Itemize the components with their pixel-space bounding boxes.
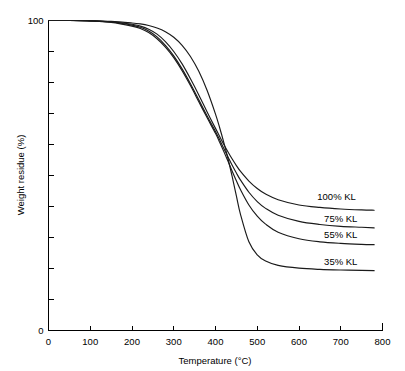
x-tick-label-400: 400 [208,336,224,347]
tga-chart-figure: 0100200300400500600700800 0100 100% KL75… [0,0,405,371]
x-tick-label-700: 700 [333,336,349,347]
x-tick-label-500: 500 [249,336,265,347]
series-line-55-kl [49,20,375,244]
y-tick-labels: 0100 [28,15,44,336]
x-tick-labels: 0100200300400500600700800 [46,336,391,347]
x-tick-label-200: 200 [124,336,140,347]
series-label-55-kl: 55% KL [324,229,357,240]
y-tick-label-0: 0 [38,325,43,336]
axis-frame [49,21,383,331]
series-annotations: 100% KL75% KL55% KL35% KL [317,191,357,267]
chart-canvas: 0100200300400500600700800 0100 100% KL75… [0,0,405,371]
series-label-100-kl: 100% KL [317,191,356,202]
x-axis-title: Temperature (°C) [179,355,252,366]
x-tick-label-100: 100 [82,336,98,347]
y-tick-marks [49,21,54,331]
x-tick-label-800: 800 [375,336,391,347]
x-tick-label-300: 300 [166,336,182,347]
x-tick-marks [49,326,383,331]
x-tick-label-600: 600 [291,336,307,347]
x-tick-label-0: 0 [46,336,51,347]
series-line-100-kl [49,20,375,210]
y-axis-title: Weight residue (%) [15,135,26,216]
y-tick-label-100: 100 [28,15,44,26]
series-label-75-kl: 75% KL [324,213,357,224]
series-label-35-kl: 35% KL [324,256,357,267]
axes-group [49,21,383,331]
